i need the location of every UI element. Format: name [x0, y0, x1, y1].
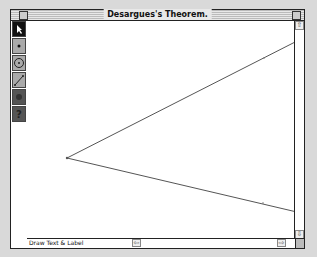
circle-icon: [13, 56, 25, 70]
hand-icon: [13, 90, 25, 104]
window-title: Desargues's Theorem.: [103, 9, 212, 20]
segment-icon: [13, 73, 25, 87]
compass-tool[interactable]: [12, 55, 26, 71]
question-icon: ?: [13, 107, 25, 121]
grow-box[interactable]: [295, 239, 304, 248]
upper-ray[interactable]: [67, 39, 297, 158]
vertical-scrollbar[interactable]: ⇧ ⇩: [294, 21, 304, 239]
title-bar[interactable]: Desargues's Theorem.: [11, 10, 304, 21]
lower-ray-point[interactable]: [262, 202, 264, 204]
sketch-window: Desargues's Theorem. ? ⇧: [10, 9, 305, 249]
lower-ray[interactable]: [67, 158, 297, 213]
upper-ray-point[interactable]: [263, 57, 265, 59]
zoom-box[interactable]: [292, 11, 301, 20]
straightedge-tool[interactable]: [12, 72, 26, 88]
point-icon: [13, 39, 25, 53]
svg-text:?: ?: [16, 109, 22, 120]
point-tool[interactable]: [12, 38, 26, 54]
close-box[interactable]: [19, 11, 28, 20]
scroll-left-arrow[interactable]: ⇦: [132, 239, 141, 247]
text-tool[interactable]: [12, 89, 26, 105]
status-text: Draw Text & Label: [27, 239, 134, 247]
status-bar: Draw Text & Label ⇦ ⇨: [27, 238, 304, 248]
scroll-right-arrow[interactable]: ⇨: [277, 239, 286, 247]
info-tool[interactable]: ?: [12, 106, 26, 122]
toolbox: ?: [11, 21, 28, 248]
sketch-canvas[interactable]: [27, 21, 297, 240]
arrow-tool[interactable]: [12, 21, 26, 37]
arrow-pointer-icon: [13, 22, 25, 36]
scroll-up-arrow[interactable]: ⇧: [295, 21, 304, 30]
sketch-drawing: [27, 21, 297, 240]
vertex-point[interactable]: [66, 157, 68, 159]
